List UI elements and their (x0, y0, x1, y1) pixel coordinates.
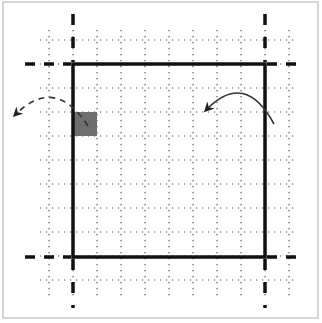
shaded-cell-rect (73, 112, 97, 136)
diagram-stage (0, 0, 322, 323)
grid-wraparound-diagram (0, 0, 322, 323)
shaded-cell (73, 112, 97, 136)
